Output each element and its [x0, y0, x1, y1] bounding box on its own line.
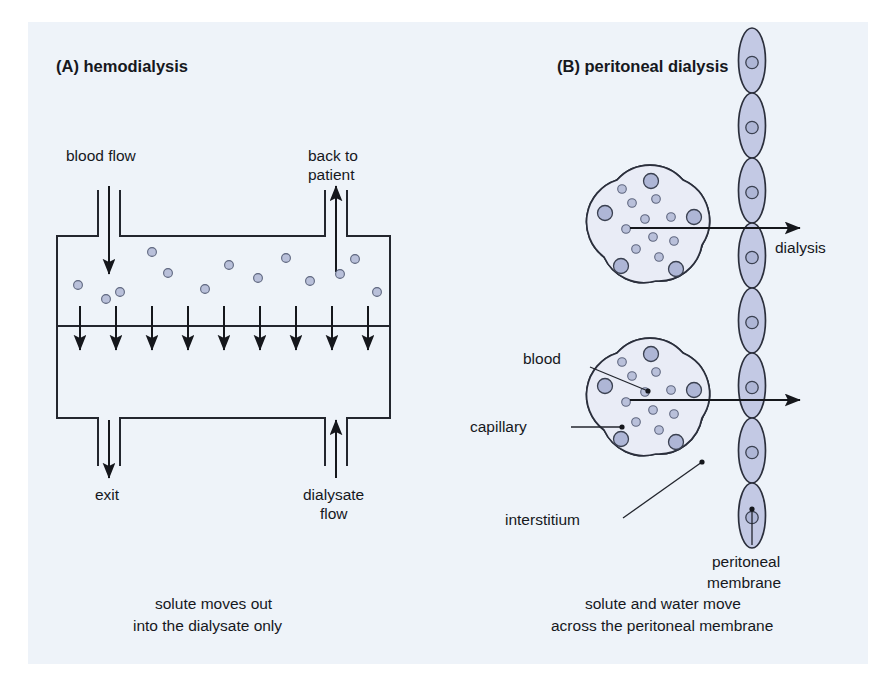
peritoneal-membrane-cell-chain — [739, 28, 766, 548]
membrane-cell-nucleus — [746, 121, 758, 133]
membrane-cell-nucleus — [746, 251, 758, 263]
solute-dot — [102, 295, 111, 304]
label-exit: exit — [95, 486, 120, 503]
solute-dot — [254, 274, 263, 283]
membrane-cell-nucleus — [746, 56, 758, 68]
solute-dot — [201, 285, 210, 294]
solute-dot — [148, 248, 157, 257]
transmembrane-solute-arrows — [80, 306, 368, 350]
label-peritoneal-membrane-line1: peritoneal — [712, 553, 780, 570]
panel-a-title: (A) hemodialysis — [56, 57, 188, 75]
solute-dot — [336, 270, 345, 279]
solute-dot — [373, 288, 382, 297]
label-blood: blood — [523, 350, 561, 367]
upper-capillary — [587, 165, 710, 283]
membrane-cell-nucleus — [746, 316, 758, 328]
peritoneal-membrane-cell — [739, 223, 766, 288]
label-interstitium: interstitium — [505, 511, 580, 528]
label-back-to-patient-line1: back to — [308, 147, 358, 164]
panel-b-caption-line1: solute and water move — [585, 595, 741, 612]
panel-a-caption-line2: into the dialysate only — [133, 617, 282, 634]
solute-dot — [74, 281, 83, 290]
solute-dot — [164, 269, 173, 278]
peritoneal-membrane-cell — [739, 418, 766, 483]
label-capillary: capillary — [470, 418, 527, 435]
panel-a-hemodialysis: (A) hemodialysis blood flow back to pati… — [56, 57, 390, 634]
leader-interstitium — [623, 459, 705, 518]
peritoneal-membrane-cell — [739, 28, 766, 93]
label-back-to-patient-line2: patient — [308, 166, 355, 183]
label-dialysate-flow-line1: dialysate — [303, 486, 364, 503]
membrane-cell-nucleus — [746, 446, 758, 458]
peritoneal-membrane-cell — [739, 158, 766, 223]
figure-root: (A) hemodialysis blood flow back to pati… — [0, 0, 882, 690]
solute-dot — [351, 255, 360, 264]
label-dialysate-flow-line2: flow — [320, 505, 348, 522]
peritoneal-membrane-cell — [739, 288, 766, 353]
panel-b-title: (B) peritoneal dialysis — [557, 57, 728, 75]
solute-dot — [306, 277, 315, 286]
peritoneal-membrane-cell — [739, 353, 766, 418]
lower-capillary — [587, 338, 710, 456]
membrane-cell-nucleus — [746, 186, 758, 198]
panel-b-peritoneal-dialysis: (B) peritoneal dialysis — [470, 28, 826, 634]
label-blood-flow: blood flow — [66, 147, 137, 164]
panel-a-caption-line1: solute moves out — [155, 595, 273, 612]
label-peritoneal-membrane-line2: membrane — [707, 574, 781, 591]
peritoneal-membrane-cell — [739, 93, 766, 158]
membrane-cell-nucleus — [746, 381, 758, 393]
label-dialysis: dialysis — [775, 239, 826, 256]
solute-dot — [282, 254, 291, 263]
dialysis-diagram-svg: (A) hemodialysis blood flow back to pati… — [0, 0, 882, 690]
panel-b-caption-line2: across the peritoneal membrane — [551, 617, 773, 634]
solute-dot — [116, 288, 125, 297]
solute-dot — [225, 261, 234, 270]
